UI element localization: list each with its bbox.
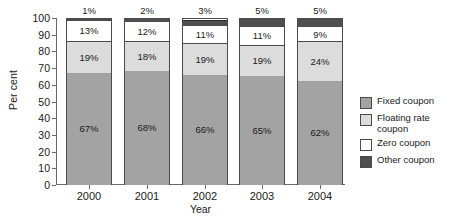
legend-item[interactable]: Zero coupon bbox=[360, 138, 451, 151]
bar-segment[interactable]: 67% bbox=[67, 73, 111, 185]
bar-group[interactable]: 67%19%13%1% bbox=[66, 18, 112, 185]
x-axis-title: Year bbox=[56, 203, 345, 215]
bar-stack[interactable]: 68%18%12% bbox=[124, 18, 170, 185]
bar-segment[interactable]: 19% bbox=[183, 43, 227, 75]
y-axis-title: Per cent bbox=[7, 55, 19, 125]
bar-segment[interactable]: 19% bbox=[240, 45, 284, 77]
bar-stack[interactable]: 67%19%13% bbox=[66, 18, 112, 185]
bar-segment-label: 11% bbox=[253, 31, 271, 41]
bar-segment[interactable]: 66% bbox=[183, 75, 227, 185]
y-axis-tick-label: 90 bbox=[38, 29, 50, 40]
legend-item[interactable]: Other coupon bbox=[360, 155, 451, 168]
y-axis-tick-label: 20 bbox=[38, 146, 50, 157]
x-axis-tick-label: 2004 bbox=[290, 191, 350, 202]
legend-item[interactable]: Fixed coupon bbox=[360, 96, 451, 109]
y-axis-tick-label: 0 bbox=[44, 180, 50, 191]
bar-segment-label: 11% bbox=[196, 30, 214, 40]
bar-segment-label: 12% bbox=[137, 27, 156, 37]
legend-item-label: Floating rate coupon bbox=[377, 113, 430, 134]
bar-group[interactable]: 68%18%12%2% bbox=[124, 18, 170, 185]
bar-top-label: 5% bbox=[297, 6, 343, 16]
bar-stack[interactable]: 65%19%11% bbox=[239, 18, 285, 185]
legend-swatch-icon bbox=[360, 156, 372, 168]
y-axis-tick bbox=[52, 185, 56, 186]
y-axis-tick-label: 80 bbox=[38, 46, 50, 57]
bar-segment-label: 13% bbox=[79, 26, 98, 36]
x-axis-tick-label: 2003 bbox=[232, 191, 292, 202]
bar-stack[interactable]: 66%19%11% bbox=[182, 18, 228, 185]
y-axis-tick-label: 100 bbox=[32, 13, 50, 24]
plot-area: 0102030405060708090100 67%19%13%1%200068… bbox=[56, 18, 345, 185]
bar-segment[interactable]: 19% bbox=[67, 41, 111, 73]
y-axis-tick-label: 50 bbox=[38, 96, 50, 107]
bar-group[interactable]: 66%19%11%3% bbox=[182, 18, 228, 185]
bar-segment[interactable] bbox=[125, 18, 169, 21]
bar-top-label: 5% bbox=[239, 6, 285, 16]
bar-segment-label: 19% bbox=[252, 56, 271, 66]
bar-segment[interactable]: 12% bbox=[125, 21, 169, 41]
bar-segment[interactable] bbox=[240, 18, 284, 26]
bar-stack[interactable]: 62%24%9% bbox=[297, 18, 343, 185]
bar-segment[interactable] bbox=[183, 20, 227, 25]
bar-segment[interactable]: 24% bbox=[298, 41, 342, 81]
x-axis-tick bbox=[147, 185, 148, 189]
chart-legend: Fixed couponFloating rate couponZero cou… bbox=[360, 96, 451, 172]
bar-segment[interactable] bbox=[67, 18, 111, 20]
bar-segment-label: 67% bbox=[79, 124, 98, 134]
bar-top-label: 3% bbox=[182, 6, 228, 16]
bar-segment[interactable]: 11% bbox=[183, 25, 227, 43]
legend-item-label: Other coupon bbox=[377, 155, 435, 166]
x-axis-tick-label: 2002 bbox=[175, 191, 235, 202]
bar-series-container: 67%19%13%1%200068%18%12%2%200166%19%11%3… bbox=[56, 18, 345, 185]
x-axis-tick bbox=[262, 185, 263, 189]
bar-segment[interactable]: 9% bbox=[298, 26, 342, 41]
bar-segment[interactable]: 65% bbox=[240, 76, 284, 185]
bar-segment-label: 9% bbox=[313, 30, 327, 40]
bar-segment-label: 68% bbox=[137, 123, 156, 133]
bar-segment-label: 66% bbox=[195, 125, 214, 135]
stacked-bar-chart: Per cent 0102030405060708090100 67%19%13… bbox=[0, 0, 451, 221]
bar-top-label: 2% bbox=[124, 6, 170, 16]
x-axis-tick bbox=[89, 185, 90, 189]
x-axis-tick-label: 2000 bbox=[59, 191, 119, 202]
bar-segment[interactable]: 68% bbox=[125, 71, 169, 185]
bar-top-label: 1% bbox=[66, 6, 112, 16]
legend-item[interactable]: Floating rate coupon bbox=[360, 113, 451, 134]
y-axis-tick-label: 60 bbox=[38, 80, 50, 91]
legend-swatch-icon bbox=[360, 139, 372, 151]
x-axis-tick-label: 2001 bbox=[117, 191, 177, 202]
bar-segment-label: 19% bbox=[79, 53, 98, 63]
bar-segment[interactable] bbox=[298, 18, 342, 26]
bar-group[interactable]: 65%19%11%5% bbox=[239, 18, 285, 185]
legend-item-label: Fixed coupon bbox=[377, 96, 434, 107]
bar-segment[interactable]: 18% bbox=[125, 41, 169, 71]
bar-segment-label: 24% bbox=[310, 57, 329, 67]
y-axis-tick-label: 10 bbox=[38, 163, 50, 174]
bar-segment-label: 18% bbox=[137, 52, 156, 62]
bar-group[interactable]: 62%24%9%5% bbox=[297, 18, 343, 185]
y-axis-tick-label: 30 bbox=[38, 130, 50, 141]
x-axis-tick bbox=[205, 185, 206, 189]
legend-swatch-icon bbox=[360, 97, 372, 109]
bar-segment[interactable]: 13% bbox=[67, 20, 111, 42]
bar-segment-label: 62% bbox=[310, 128, 329, 138]
legend-item-label: Zero coupon bbox=[377, 138, 430, 149]
y-axis-tick-label: 70 bbox=[38, 63, 50, 74]
x-axis-tick bbox=[320, 185, 321, 189]
bar-segment-label: 65% bbox=[252, 126, 271, 136]
legend-swatch-icon bbox=[360, 114, 372, 126]
bar-segment[interactable]: 11% bbox=[240, 26, 284, 44]
bar-segment[interactable]: 62% bbox=[298, 81, 342, 185]
bar-segment-label: 19% bbox=[195, 55, 214, 65]
y-axis-tick-label: 40 bbox=[38, 113, 50, 124]
